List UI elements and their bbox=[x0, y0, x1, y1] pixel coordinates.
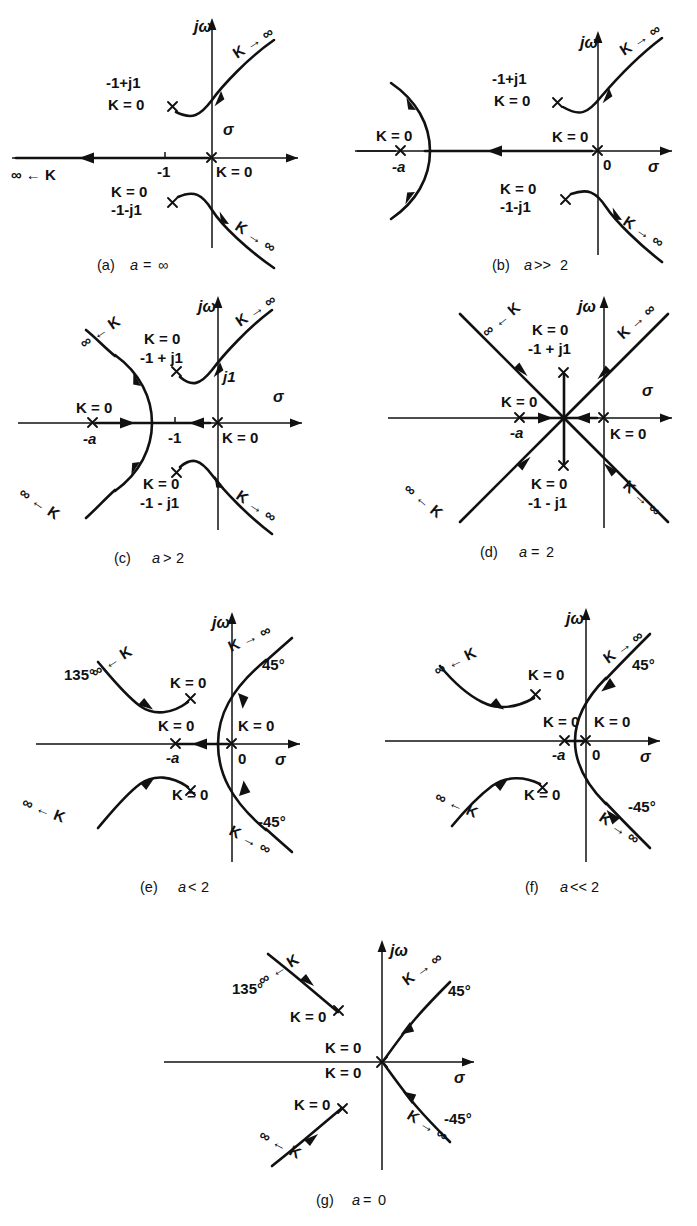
panel-g-origin-k-lower: K = 0 bbox=[325, 1064, 361, 1081]
panel-f-caption-value: 2 bbox=[591, 879, 599, 895]
panel-c-jomega-label: jω bbox=[196, 298, 216, 315]
panel-d-caption-rel: = bbox=[531, 544, 539, 560]
panel-b-pole-upper-k: K = 0 bbox=[494, 92, 530, 109]
root-locus-figure: σ jω -1+j1 K = 0 K = 0 -1-j1 K = 0 -1 ∞ … bbox=[0, 0, 697, 1226]
panel-g-angle-upper-left: 135° bbox=[232, 980, 263, 997]
panel-a-asymptote-left-label: ∞ ← K bbox=[11, 166, 56, 183]
panel-d-origin-k: K = 0 bbox=[610, 425, 646, 442]
panel-b-caption-param: a bbox=[524, 257, 532, 273]
panel-e-caption-param: a bbox=[178, 879, 186, 895]
panel-f-origin-k: K = 0 bbox=[594, 713, 630, 730]
panel-a-caption-value: ∞ bbox=[158, 257, 168, 273]
panel-a-caption-param: a bbox=[130, 257, 138, 273]
panel-e-angle-upper-right: 45° bbox=[262, 656, 285, 673]
panel-d-jomega-label: jω bbox=[576, 298, 596, 315]
panel-e-jomega-label: jω bbox=[210, 614, 230, 631]
panel-d-sigma-label: σ bbox=[642, 382, 654, 399]
figure-canvas: σ jω -1+j1 K = 0 K = 0 -1-j1 K = 0 -1 ∞ … bbox=[0, 0, 697, 1226]
panel-d-pole-a-k: K = 0 bbox=[501, 393, 537, 410]
panel-c-caption-index: (c) bbox=[114, 550, 131, 566]
panel-b-jomega-label: jω bbox=[578, 34, 598, 51]
panel-c-pole-a-coord: -a bbox=[83, 430, 96, 447]
panel-d-caption-param: a bbox=[519, 544, 527, 560]
panel-f-pole-a-coord: -a bbox=[552, 746, 565, 763]
panel-f-pole-upper-k: K = 0 bbox=[528, 666, 564, 683]
panel-f-caption-param: a bbox=[560, 879, 568, 895]
panel-g-pole-lower-k: K = 0 bbox=[294, 1096, 330, 1113]
panel-g-angle-lower-right: -45° bbox=[444, 1110, 472, 1127]
panel-c-pole-a-k: K = 0 bbox=[76, 399, 112, 416]
panel-a-pole-lower-k: K = 0 bbox=[111, 183, 147, 200]
panel-b-origin-k: K = 0 bbox=[552, 128, 588, 145]
panel-g-sigma-label: σ bbox=[454, 1069, 466, 1086]
panel-g-origin-k-upper: K = 0 bbox=[325, 1039, 361, 1056]
panel-g-caption-param: a bbox=[352, 1192, 360, 1208]
panel-g-caption-value: 0 bbox=[378, 1192, 386, 1208]
panel-e-pole-upper-k: K = 0 bbox=[170, 674, 206, 691]
panel-e-sigma-label: σ bbox=[275, 751, 287, 768]
panel-a-caption-index: (a) bbox=[97, 257, 115, 273]
panel-e-origin-k: K = 0 bbox=[238, 717, 274, 734]
panel-c-sigma-label: σ bbox=[273, 388, 285, 405]
panel-e-pole-a-coord: -a bbox=[166, 749, 179, 766]
panel-f-jomega-label: jω bbox=[564, 610, 584, 627]
panel-f-angle-lower-right: -45° bbox=[628, 798, 656, 815]
panel-d-pole-upper-k: K = 0 bbox=[532, 321, 568, 338]
panel-c-caption-param: a bbox=[152, 550, 160, 566]
panel-d-pole-lower-k: K = 0 bbox=[531, 475, 567, 492]
panel-a-pole-upper-coord: -1+j1 bbox=[106, 74, 141, 91]
panel-d-pole-lower-coord: -1 - j1 bbox=[528, 494, 567, 511]
panel-a-caption-rel: = bbox=[143, 257, 151, 273]
panel-c-pole-upper-coord: -1 + j1 bbox=[140, 349, 183, 366]
panel-g-pole-upper-k: K = 0 bbox=[290, 1008, 326, 1025]
panel-g-caption-rel: = bbox=[363, 1192, 371, 1208]
panel-f-caption-rel: << bbox=[570, 879, 587, 895]
panel-g-angle-upper-right: 45° bbox=[448, 982, 471, 999]
panel-c-pole-lower-k: K = 0 bbox=[143, 475, 179, 492]
panel-c-caption-value: 2 bbox=[176, 550, 184, 566]
panel-e-angle-lower-right: -45° bbox=[258, 813, 286, 830]
panel-b-sigma-label: σ bbox=[648, 158, 660, 175]
panel-e-caption-rel: < bbox=[188, 879, 196, 895]
panel-b-pole-a-k: K = 0 bbox=[376, 127, 412, 144]
panel-b-caption-rel: >> bbox=[534, 257, 551, 273]
panel-d-pole-upper-coord: -1 + j1 bbox=[528, 340, 571, 357]
panel-c-pole-lower-coord: -1 - j1 bbox=[140, 494, 179, 511]
panel-c-real-tick-label: -1 bbox=[168, 429, 181, 446]
panel-g-jomega-label: jω bbox=[388, 942, 408, 959]
panel-a-pole-lower-coord: -1-j1 bbox=[111, 201, 142, 218]
panel-f-angle-upper-right: 45° bbox=[632, 656, 655, 673]
panel-c-origin-k: K = 0 bbox=[222, 429, 258, 446]
panel-a-jomega-label: jω bbox=[192, 18, 212, 35]
panel-f-origin-tick: 0 bbox=[592, 746, 600, 763]
panel-b-caption-value: 2 bbox=[560, 257, 568, 273]
panel-e-caption-value: 2 bbox=[201, 879, 209, 895]
panel-d-caption-index: (d) bbox=[480, 544, 498, 560]
panel-d-caption-value: 2 bbox=[546, 544, 554, 560]
panel-c-pole-upper-k: K = 0 bbox=[144, 330, 180, 347]
panel-b-origin-tick: 0 bbox=[603, 156, 611, 173]
panel-c-caption-rel: > bbox=[163, 550, 171, 566]
panel-e-pole-lower-k: K = 0 bbox=[172, 786, 208, 803]
panel-a-real-tick-label: -1 bbox=[157, 163, 170, 180]
panel-d-pole-a-coord: -a bbox=[510, 424, 523, 441]
panel-e-caption-index: (e) bbox=[140, 879, 158, 895]
panel-a-sigma-label: σ bbox=[223, 121, 235, 138]
panel-b-pole-lower-coord: -1-j1 bbox=[500, 198, 531, 215]
panel-b-caption-index: (b) bbox=[492, 257, 510, 273]
panel-a-origin-k: K = 0 bbox=[216, 163, 252, 180]
panel-e-origin-tick: 0 bbox=[238, 750, 246, 767]
panel-f-sigma-label: σ bbox=[640, 748, 652, 765]
panel-a-caption: (a) a = ∞ bbox=[97, 257, 168, 273]
panel-f-caption-index: (f) bbox=[525, 879, 539, 895]
panel-b-pole-upper-coord: -1+j1 bbox=[492, 70, 527, 87]
panel-b-pole-lower-k: K = 0 bbox=[500, 180, 536, 197]
panel-a-pole-upper-k: K = 0 bbox=[108, 96, 144, 113]
panel-e-pole-a-k: K = 0 bbox=[158, 717, 194, 734]
panel-g-caption-index: (g) bbox=[316, 1192, 334, 1208]
panel-f-pole-lower-k: K = 0 bbox=[524, 786, 560, 803]
panel-b-pole-a-coord: -a bbox=[392, 158, 405, 175]
panel-f-pole-a-k: K = 0 bbox=[543, 713, 579, 730]
panel-c-imag-tick-label: j1 bbox=[221, 368, 236, 385]
